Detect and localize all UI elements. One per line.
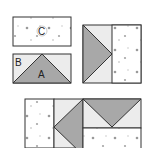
piece-c-label: C [38, 26, 45, 37]
piece-c-rectangle: C [13, 17, 71, 46]
piece-a-label: A [38, 69, 45, 80]
quilt-diagram: C B A [0, 0, 147, 148]
flying-geese-unit-ab: B A [13, 54, 71, 83]
piece-b-label: B [15, 57, 22, 68]
assembled-block [25, 99, 141, 148]
sideways-geese-square [83, 25, 141, 83]
